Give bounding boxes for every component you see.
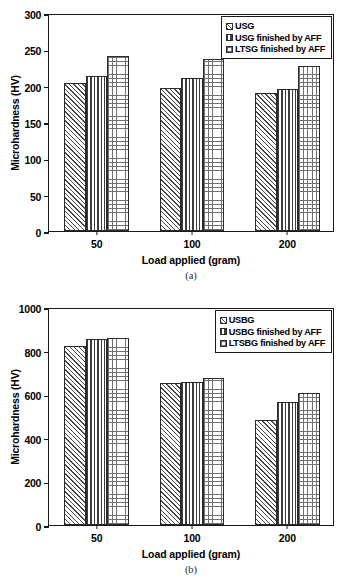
x-tick-a-100: 100	[184, 231, 201, 250]
x-tick-label: 50	[91, 532, 102, 544]
x-axis-label-a: Load applied (gram)	[48, 254, 334, 266]
legend-swatch-icon	[220, 317, 227, 324]
x-tick-mark	[287, 525, 288, 529]
legend-a: USGUSG finished by AFFLTSG finished by A…	[221, 16, 332, 59]
bar-b-100g-series3	[203, 378, 225, 525]
x-tick-b-50: 50	[91, 525, 102, 544]
legend-swatch-icon	[226, 46, 233, 53]
legend-b: USBGUSBG finished by AFFLTSBG finished b…	[215, 310, 332, 353]
y-tick-label: 250	[24, 45, 44, 57]
y-tick-label: 300	[24, 9, 44, 21]
y-tick-label: 0	[35, 227, 44, 239]
legend-label: LTSG finished by AFF	[235, 44, 325, 54]
chart-panel-a: Microhardness (HV) 050100150200250300 50…	[0, 0, 361, 294]
bar-a-50g-series3	[107, 56, 129, 231]
y-tick-a-0: 0	[35, 227, 49, 239]
x-tick-mark	[191, 525, 192, 529]
y-tick-b-800: 800	[24, 347, 49, 359]
legend-swatch-icon	[226, 23, 233, 30]
bar-a-200g-series1	[255, 93, 277, 231]
y-tick-b-200: 200	[24, 477, 49, 489]
chart-panel-b: Microhardness (HV) 02004006008001000 501…	[0, 294, 361, 588]
x-tick-mark	[96, 231, 97, 235]
y-tick-mark	[44, 526, 49, 527]
legend-item-a-2: USG finished by AFF	[226, 32, 325, 43]
legend-item-b-1: USBG	[220, 315, 325, 326]
bar-a-200g-series2	[277, 89, 299, 231]
x-tick-a-50: 50	[91, 231, 102, 250]
x-tick-b-200: 200	[279, 525, 296, 544]
legend-swatch-icon	[220, 340, 227, 347]
bar-b-100g-series2	[181, 382, 203, 525]
legend-swatch-icon	[220, 328, 227, 335]
x-tick-mark	[287, 231, 288, 235]
y-tick-mark	[44, 232, 49, 233]
legend-label: USBG	[229, 315, 255, 325]
x-tick-mark	[191, 231, 192, 235]
panel-tag-a: (a)	[48, 270, 334, 281]
y-tick-label: 800	[24, 347, 44, 359]
y-tick-b-600: 600	[24, 390, 49, 402]
y-tick-a-50: 50	[30, 191, 49, 203]
y-axis-label-b: Microhardness (HV)	[9, 327, 21, 507]
x-tick-label: 200	[279, 532, 296, 544]
bar-a-100g-series3	[203, 59, 225, 231]
y-tick-label: 1000	[19, 303, 44, 315]
x-tick-b-100: 100	[184, 525, 201, 544]
legend-item-a-3: LTSG finished by AFF	[226, 44, 325, 55]
y-tick-a-100: 100	[24, 154, 49, 166]
bar-b-50g-series1	[64, 346, 86, 525]
figure-microhardness: Microhardness (HV) 050100150200250300 50…	[0, 0, 361, 588]
x-tick-mark	[96, 525, 97, 529]
bar-b-50g-series2	[86, 339, 108, 525]
x-tick-label: 100	[184, 532, 201, 544]
y-tick-a-150: 150	[24, 118, 49, 130]
x-axis-label-b: Load applied (gram)	[48, 548, 334, 560]
y-tick-a-300: 300	[24, 9, 49, 21]
legend-label: USBG finished by AFF	[229, 327, 322, 337]
bar-b-200g-series3	[298, 393, 320, 525]
y-tick-label: 0	[35, 521, 44, 533]
legend-item-b-2: USBG finished by AFF	[220, 326, 325, 337]
y-tick-label: 200	[24, 477, 44, 489]
x-tick-a-200: 200	[279, 231, 296, 250]
x-tick-label: 200	[279, 238, 296, 250]
legend-item-a-1: USG	[226, 21, 325, 32]
y-tick-b-400: 400	[24, 434, 49, 446]
y-tick-label: 400	[24, 434, 44, 446]
bar-a-100g-series1	[160, 88, 182, 231]
y-tick-label: 150	[24, 118, 44, 130]
panel-tag-b: (b)	[48, 564, 334, 575]
y-axis-label-a: Microhardness (HV)	[9, 33, 21, 213]
legend-label: LTSBG finished by AFF	[229, 338, 325, 348]
legend-swatch-icon	[226, 34, 233, 41]
legend-label: USG finished by AFF	[235, 33, 321, 43]
y-tick-label: 50	[30, 191, 44, 203]
y-tick-label: 100	[24, 154, 44, 166]
bar-b-200g-series1	[255, 420, 277, 525]
bar-a-50g-series2	[86, 76, 108, 231]
bar-a-100g-series2	[181, 78, 203, 231]
y-tick-b-0: 0	[35, 521, 49, 533]
legend-item-b-3: LTSBG finished by AFF	[220, 338, 325, 349]
legend-label: USG	[235, 21, 254, 31]
y-tick-b-1000: 1000	[19, 303, 49, 315]
y-tick-a-200: 200	[24, 82, 49, 94]
y-tick-label: 200	[24, 82, 44, 94]
plot-area-b: Microhardness (HV) 02004006008001000 501…	[48, 308, 334, 526]
bar-b-100g-series1	[160, 383, 182, 525]
x-tick-label: 100	[184, 238, 201, 250]
bar-a-50g-series1	[64, 83, 86, 231]
bar-a-200g-series3	[298, 66, 320, 231]
y-tick-a-250: 250	[24, 45, 49, 57]
bar-b-50g-series3	[107, 338, 129, 525]
x-tick-label: 50	[91, 238, 102, 250]
plot-area-a: Microhardness (HV) 050100150200250300 50…	[48, 14, 334, 232]
bar-b-200g-series2	[277, 402, 299, 525]
y-tick-label: 600	[24, 390, 44, 402]
